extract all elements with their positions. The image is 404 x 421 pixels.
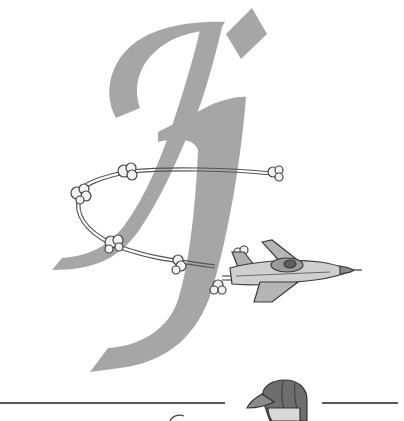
- letter-j-dot: [226, 8, 267, 59]
- smoke-puff-3: [268, 166, 283, 181]
- letter-j-lowercase: [90, 97, 246, 372]
- illustration-canvas: [0, 0, 404, 421]
- jet-plane: [230, 240, 362, 302]
- smoke-puff-5: [172, 255, 186, 274]
- smoke-puff-1: [118, 163, 137, 180]
- smoke-puff-2: [71, 184, 91, 204]
- partial-shape-bottom: [170, 415, 184, 421]
- cartoon-figure: [247, 380, 307, 421]
